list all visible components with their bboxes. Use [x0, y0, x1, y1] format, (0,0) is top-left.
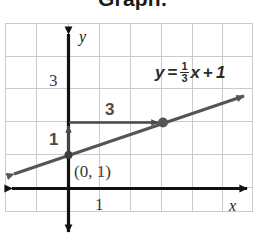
fraction-denominator: 3 — [180, 72, 188, 84]
run-label: 3 — [105, 101, 114, 118]
plot-background — [5, 23, 253, 212]
equation-fraction: 1 3 — [180, 61, 188, 84]
equation-lhs: y — [155, 64, 164, 81]
y-axis-label: y — [79, 29, 86, 45]
equation-intercept: 1 — [216, 64, 225, 81]
point-3-2 — [158, 118, 168, 128]
x-axis-label: x — [229, 198, 236, 214]
equation-equals-sign: = — [167, 64, 177, 81]
y-tick-label-3: 3 — [49, 72, 58, 89]
fraction-numerator: 1 — [180, 61, 188, 72]
figure-title: Graph. — [0, 0, 265, 11]
intercept-point-label: (0, 1) — [74, 163, 111, 180]
rise-label: 1 — [49, 131, 58, 148]
point-0-1 — [65, 151, 73, 159]
graph-figure: Graph. — [0, 0, 265, 243]
x-tick-label-1: 1 — [95, 196, 104, 213]
equation-plus-sign: + — [203, 64, 213, 81]
coordinate-plane — [0, 20, 265, 243]
equation-variable: x — [191, 64, 200, 81]
coordinate-plane-svg — [0, 20, 265, 243]
equation-label: y = 1 3 x + 1 — [154, 61, 226, 84]
